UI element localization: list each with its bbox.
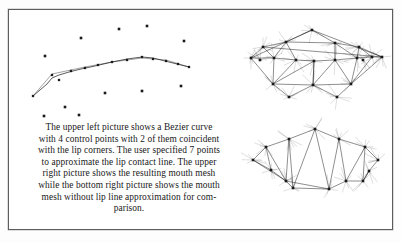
mesh-vertex — [334, 59, 337, 62]
curve-sample-point — [126, 59, 128, 61]
mesh-vertex — [265, 146, 268, 149]
mesh-edge — [337, 84, 351, 97]
mesh-edge — [273, 84, 313, 85]
mesh-vertex — [334, 42, 337, 45]
vertex-halo — [273, 42, 286, 46]
mesh-vertex — [313, 60, 316, 63]
mesh-edge — [313, 60, 335, 85]
mesh-vertex — [338, 138, 341, 141]
vertex-halo — [279, 32, 286, 42]
mesh-vertex — [262, 46, 265, 49]
mesh-edge — [289, 85, 313, 97]
caption-line: right picture shows the resulting mouth … — [19, 168, 239, 180]
mesh-edge — [329, 181, 346, 189]
vertex-halo — [321, 43, 335, 46]
figure-caption: The upper left picture shows a Bezier cu… — [15, 122, 243, 228]
mesh-vertex — [368, 170, 371, 173]
mesh-vertex — [328, 188, 331, 191]
mesh-vertex — [358, 46, 361, 49]
upper-left-bezier-panel — [19, 14, 241, 124]
feature-point — [43, 115, 46, 118]
feature-point — [78, 114, 81, 117]
vertex-halo — [241, 153, 253, 160]
vertex-halo — [369, 171, 377, 182]
mesh-edge — [346, 147, 365, 181]
mesh-vertex — [252, 159, 255, 162]
caption-line: mesh without lip line approximation for … — [19, 192, 239, 204]
vertex-halo — [344, 53, 357, 58]
mesh-vertex — [288, 96, 291, 99]
mesh-vertex — [377, 159, 380, 162]
feature-point — [44, 55, 47, 58]
mesh-vertex — [288, 138, 291, 141]
curve-sample-point — [111, 61, 113, 63]
curve-sample-point — [97, 64, 99, 66]
vertex-halo — [278, 131, 289, 139]
feature-point — [146, 25, 149, 28]
mesh-edge — [369, 160, 378, 171]
vertex-halo — [376, 57, 382, 68]
curve-sample-point — [51, 74, 53, 76]
mesh-vertex — [259, 59, 262, 62]
mesh-edge — [286, 42, 335, 43]
curve-sample-point — [165, 60, 167, 62]
vertex-halo — [309, 30, 312, 42]
vertex-halo — [346, 181, 353, 191]
mesh-edge — [312, 30, 382, 57]
mesh-edge — [315, 129, 329, 189]
curve-sample-point — [58, 79, 60, 81]
mesh-edge — [314, 60, 335, 61]
vertex-halo — [263, 37, 267, 47]
vertex-halo — [284, 188, 293, 191]
mesh-edge — [273, 61, 314, 84]
curve-sample-point — [188, 66, 190, 68]
vertex-halo — [312, 30, 324, 36]
vertex-halo — [296, 60, 304, 72]
feature-point — [183, 40, 186, 43]
upper-right-mouth-mesh-plot — [241, 14, 391, 119]
mesh-edge — [315, 129, 339, 139]
mesh-edge — [266, 147, 286, 181]
mesh-vertex — [273, 57, 276, 60]
curve-sample-point — [84, 67, 86, 69]
mesh-vertex — [295, 59, 298, 62]
caption-line: parison. — [19, 203, 239, 215]
mesh-vertex — [311, 29, 314, 32]
caption-line: with 4 control points with 2 of them coi… — [19, 134, 239, 146]
caption-line: while the bottom right picture shows the… — [19, 180, 239, 192]
mesh-vertex — [312, 84, 315, 87]
mesh-edge — [293, 129, 315, 188]
vertex-halo — [355, 181, 363, 191]
mesh-edge — [273, 84, 289, 97]
mesh-vertex — [371, 56, 374, 59]
feature-point — [141, 90, 144, 93]
mesh-vertex — [364, 146, 367, 149]
vertex-halo — [382, 56, 391, 57]
vertex-halo — [353, 181, 363, 190]
feature-point — [104, 92, 107, 95]
mesh-vertex — [381, 56, 384, 59]
vertex-halo — [341, 168, 346, 181]
bezier-curve-plot — [19, 14, 241, 124]
caption-line: The upper left picture shows a Bezier cu… — [19, 122, 239, 134]
mesh-edge — [253, 147, 266, 160]
caption-line: to approximate the lip contact line. The… — [19, 157, 239, 169]
mesh-edge — [266, 139, 289, 147]
figure-page: The upper left picture shows a Bezier cu… — [0, 0, 401, 243]
mesh-vertex — [362, 180, 365, 183]
feature-point — [80, 37, 83, 40]
mesh-vertex — [292, 187, 295, 190]
vertex-halo — [262, 170, 271, 173]
bottom-right-mouth-mesh-plot — [241, 115, 391, 220]
feature-point — [64, 106, 67, 109]
feature-point — [118, 28, 121, 31]
vertex-halo — [373, 57, 382, 64]
vertex-halo — [284, 60, 296, 65]
mesh-vertex — [356, 57, 359, 60]
mesh-edge — [335, 43, 357, 58]
mesh-vertex — [285, 41, 288, 44]
curve-sample-point — [32, 95, 34, 97]
vertex-halo — [369, 171, 373, 183]
mesh-vertex — [345, 180, 348, 183]
mesh-vertex — [314, 128, 317, 131]
